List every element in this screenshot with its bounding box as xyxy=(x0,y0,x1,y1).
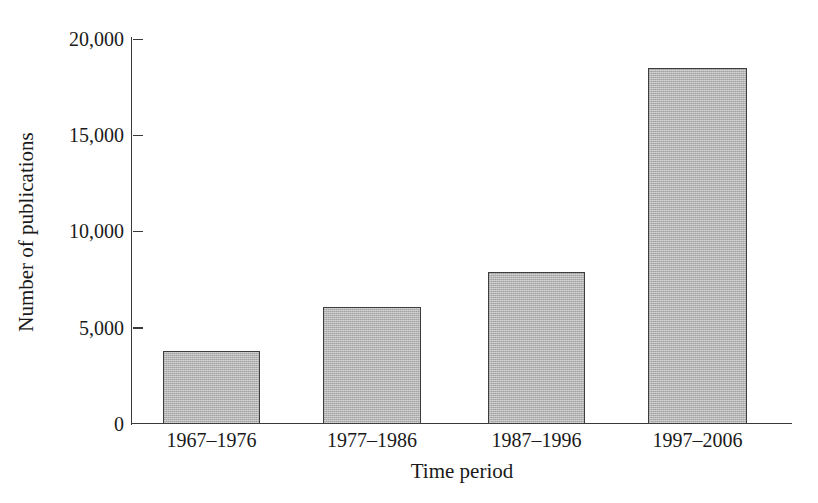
bar-1987-1996 xyxy=(488,272,585,424)
x-axis-title: Time period xyxy=(132,459,792,483)
bar-chart-figure: 20,000 15,000 10,000 5,000 0 1967–1976 1… xyxy=(0,0,818,503)
bar-1977-1986 xyxy=(323,307,421,424)
y-tick-mark-20000 xyxy=(133,39,143,40)
y-tick-mark-5000 xyxy=(133,327,143,328)
y-tick-mark-10000 xyxy=(133,231,143,232)
bar-1997-2006 xyxy=(648,68,747,424)
y-tick-label-0: 0 xyxy=(0,414,124,434)
x-tick-label-1997-2006: 1997–2006 xyxy=(637,428,758,452)
bar-1967-1976 xyxy=(163,351,260,424)
y-axis-title: Number of publications xyxy=(14,82,38,382)
x-tick-label-1967-1976: 1967–1976 xyxy=(151,428,272,452)
y-tick-mark-15000 xyxy=(133,135,143,136)
x-tick-label-1977-1986: 1977–1986 xyxy=(311,428,433,452)
y-tick-label-20000: 20,000 xyxy=(0,29,124,49)
x-tick-label-1987-1996: 1987–1996 xyxy=(476,428,597,452)
